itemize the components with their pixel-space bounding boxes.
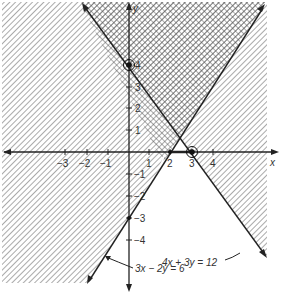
x-axis-arrow-right-icon [271, 149, 279, 155]
svg-text:−1: −1 [100, 158, 112, 169]
point-0-4 [126, 62, 132, 68]
svg-text:−3: −3 [134, 213, 146, 224]
y-axis-label: y [132, 3, 139, 14]
svg-text:−2: −2 [79, 158, 91, 169]
svg-text:1: 1 [135, 125, 141, 136]
svg-text:−3: −3 [57, 158, 69, 169]
svg-text:1: 1 [146, 158, 152, 169]
svg-text:4: 4 [135, 60, 141, 71]
point-0-neg3 [127, 216, 131, 220]
svg-text:2: 2 [167, 158, 173, 169]
svg-text:4: 4 [210, 158, 216, 169]
svg-text:2: 2 [135, 103, 141, 114]
x-axis-label: x [269, 157, 276, 168]
label-3x-2y=6: 3x − 2y = 6 [135, 263, 185, 274]
inequality-graph: x y −3 −2 −1 1 2 3 4 4 3 2 1 −1 −2 −3 [0, 0, 281, 294]
y-axis-arrow-down-icon [126, 284, 132, 292]
svg-text:−4: −4 [134, 235, 146, 246]
svg-text:3: 3 [189, 158, 195, 169]
point-2-0 [168, 150, 172, 154]
point-3-0 [189, 149, 195, 155]
svg-text:−1: −1 [134, 169, 146, 180]
